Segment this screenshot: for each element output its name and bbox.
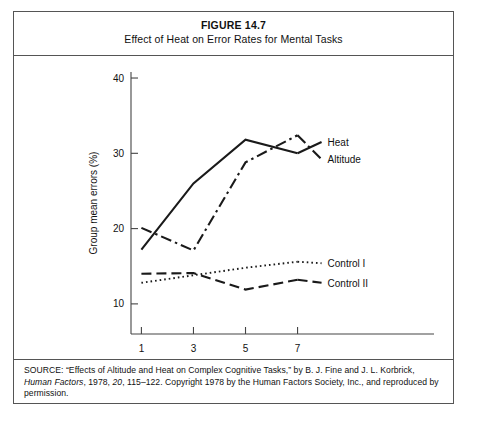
series-leader-control-i (298, 262, 322, 264)
series-label-altitude: Altitude (328, 154, 362, 165)
chart-series-labels: HeatAltitudeControl IControl II (328, 137, 369, 289)
y-axis-tick-label: 30 (113, 148, 125, 159)
series-leader-control-ii (298, 280, 322, 283)
chart-axes: 102030401357Hours of exposureGroup mean … (88, 72, 434, 361)
x-axis-tick-label: 5 (243, 343, 249, 354)
x-axis-tick-label: 3 (191, 343, 197, 354)
source-note-block: SOURCE: “Effects of Altitude and Heat on… (14, 359, 453, 403)
series-label-heat: Heat (328, 137, 349, 148)
source-prefix: SOURCE: (24, 365, 66, 375)
series-line-heat (141, 140, 297, 250)
x-axis-tick-label: 1 (139, 343, 145, 354)
chart-series (141, 135, 321, 289)
series-leader-altitude (298, 135, 322, 159)
x-axis-tick-label: 7 (295, 343, 301, 354)
chart-area: 102030401357Hours of exposureGroup mean … (14, 56, 453, 361)
y-axis-tick-label: 20 (113, 223, 125, 234)
figure-caption: Effect of Heat on Error Rates for Mental… (14, 32, 453, 47)
source-note: SOURCE: “Effects of Altitude and Heat on… (24, 365, 443, 400)
series-line-control-i (141, 262, 297, 283)
series-label-control-i: Control I (328, 258, 366, 269)
figure-number: FIGURE 14.7 (14, 18, 453, 32)
figure-frame: FIGURE 14.7 Effect of Heat on Error Rate… (13, 11, 454, 404)
y-axis-tick-label: 40 (113, 73, 125, 84)
line-chart: 102030401357Hours of exposureGroup mean … (14, 56, 453, 361)
y-axis-tick-label: 10 (113, 298, 125, 309)
series-line-control-ii (141, 273, 297, 290)
series-line-altitude (141, 135, 297, 250)
series-label-control-ii: Control II (328, 278, 369, 289)
y-axis-title: Group mean errors (%) (88, 152, 99, 255)
figure-title-block: FIGURE 14.7 Effect of Heat on Error Rate… (14, 12, 453, 56)
